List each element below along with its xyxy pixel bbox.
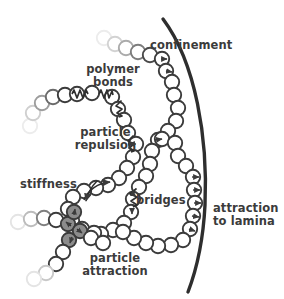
label-particle-repulsion-line2: repulsion [63,139,148,152]
label-bridges: bridges [136,194,186,207]
label-attraction-to-lamina-line1: attraction [213,202,279,215]
diagram-canvas: confinement polymer bonds particle repul… [0,0,284,299]
label-polymer-bonds-line2: bonds [78,76,148,89]
label-confinement: confinement [150,39,232,52]
label-particle-repulsion-line1: particle [63,126,148,139]
label-attraction-to-lamina-line2: to lamina [213,215,275,228]
label-particle-attraction-line2: attraction [75,265,155,278]
label-particle-attraction-line1: particle [75,252,155,265]
label-polymer-bonds-line1: polymer [78,63,148,76]
label-stiffness: stiffness [20,178,77,191]
